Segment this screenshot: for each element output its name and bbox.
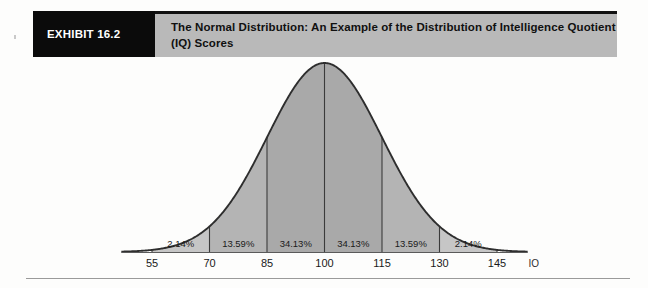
x-axis-label: IQ: [528, 258, 539, 267]
band-percentage-label: 2.14%: [455, 238, 482, 249]
exhibit-tag: EXHIBIT 16.2: [33, 11, 155, 57]
x-tick-label: 55: [146, 257, 158, 267]
page-title: The Normal Distribution: An Example of t…: [171, 20, 617, 51]
band-percentage-label: 13.59%: [395, 238, 428, 249]
exhibit-header: EXHIBIT 16.2 The Normal Distribution: An…: [33, 11, 617, 57]
band-percentage-label: 2.14%: [167, 238, 194, 249]
band-divider-lines: [152, 63, 497, 252]
normal-distribution-chart: 2.14%13.59%34.13%34.13%13.59%2.14% 55708…: [0, 57, 648, 267]
scan-artifact: [14, 35, 16, 39]
band-percentage-label: 13.59%: [222, 238, 255, 249]
x-tick-label: 115: [373, 257, 391, 267]
x-axis-ticks: 557085100115130145: [146, 257, 506, 267]
chart-svg: 2.14%13.59%34.13%34.13%13.59%2.14% 55708…: [0, 57, 648, 267]
x-tick-label: 85: [261, 257, 273, 267]
distribution-band: [325, 63, 383, 252]
band-percentage-label: 34.13%: [280, 238, 313, 249]
x-tick-label: 100: [315, 257, 333, 267]
distribution-band: [267, 63, 325, 252]
x-tick-label: 145: [488, 257, 506, 267]
band-percentage-label: 34.13%: [337, 238, 370, 249]
exhibit-title-bar: The Normal Distribution: An Example of t…: [155, 11, 617, 57]
x-tick-label: 70: [203, 257, 215, 267]
footer-divider: [26, 278, 630, 279]
x-tick-label: 130: [430, 257, 448, 267]
